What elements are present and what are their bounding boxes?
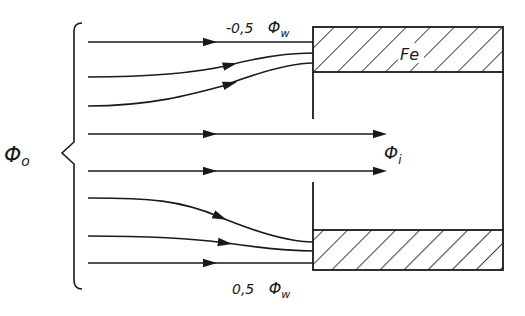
phi-o-label: Φo <box>4 142 30 169</box>
brace <box>62 23 82 289</box>
phi-i-label: Φi <box>384 142 402 167</box>
bottom-flux-label: 0,5 Φw <box>232 279 290 301</box>
flux-line-top-curve-1 <box>88 65 230 77</box>
flux-line-top-curve-2 <box>88 84 230 106</box>
fe-label: Fe <box>400 45 419 64</box>
top-flux-label: -0,5 Φw <box>226 18 289 40</box>
fe-bottom-wall <box>313 230 503 270</box>
flux-line-bottom-curve-2 <box>88 236 225 243</box>
flux-diagram: Φo Φi -0,5 Φw 0,5 Φw Fe <box>0 0 525 316</box>
flux-line-bottom-curve-1 <box>88 198 220 217</box>
